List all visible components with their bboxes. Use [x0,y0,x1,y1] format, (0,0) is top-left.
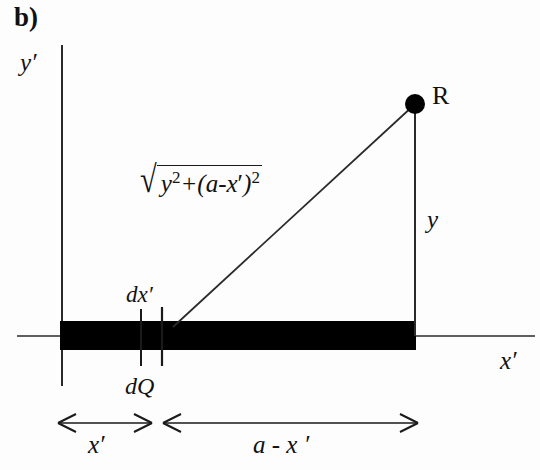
formula-term-y: y [161,170,172,197]
formula-term-a-minus-x: a-x [206,170,238,197]
dimension-arrow-a-minus-x-prime [163,414,418,432]
distance-line [173,105,414,327]
formula-exponent-2: 2 [251,168,260,187]
dimension-label-x-prime: x′ [88,432,105,457]
panel-letter: b) [14,4,38,31]
point-r-label: R [432,83,449,109]
diagram-canvas [0,0,540,470]
charge-element-label-dq: dQ [125,374,154,398]
element-width-label-dx-prime: dx′ [126,283,153,306]
dimension-arrow-x-prime [58,414,152,432]
x-axis-label: x′ [500,348,517,373]
physics-figure-panel-b: b) y′ x′ R y dx′ dQ x′ a - x ′ √ y2+(a-x… [0,0,540,470]
height-label-y: y [427,207,438,232]
formula-operator: + [180,170,197,197]
y-axis-label: y′ [20,50,37,75]
dimension-label-a-minus-x-prime: a - x ′ [253,432,309,457]
distance-formula: √ y2+(a-x′)2 [138,164,262,196]
formula-open-paren: ( [197,170,205,197]
charged-rod-bar [60,321,416,350]
radical-sign-icon: √ [140,164,157,196]
radicand: y2+(a-x′)2 [157,165,262,196]
point-r-dot [405,94,425,114]
